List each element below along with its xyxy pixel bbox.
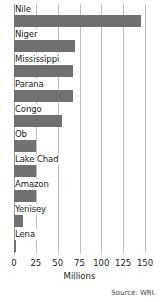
- bar-row: Congo: [14, 104, 145, 129]
- bar-chart: NileNigerMississippiParanaCongoObLake Ch…: [0, 0, 160, 302]
- bar: [14, 65, 73, 77]
- bar-category-label: Lena: [15, 229, 37, 240]
- bar-category-label: Yenisey: [15, 204, 48, 215]
- bar-category-label: Congo: [15, 104, 44, 115]
- x-tick-label: 50: [52, 258, 63, 268]
- bar: [14, 40, 75, 52]
- bar-category-label: Amazon: [15, 179, 51, 190]
- bar-category-label: Nile: [15, 4, 33, 15]
- gridline-150: [145, 4, 146, 254]
- bar: [14, 115, 62, 127]
- bar: [14, 240, 16, 252]
- bar-rows: NileNigerMississippiParanaCongoObLake Ch…: [14, 4, 145, 254]
- bar-row: Ob: [14, 129, 145, 154]
- x-tick-label: 150: [137, 258, 153, 268]
- x-tick-label: 125: [115, 258, 131, 268]
- bar-category-label: Ob: [15, 129, 29, 140]
- x-tick-label: 25: [30, 258, 41, 268]
- bar-category-label: Parana: [15, 79, 46, 90]
- bar: [14, 215, 23, 227]
- bar-category-label: Mississippi: [15, 54, 61, 65]
- bar-category-label: Niger: [15, 29, 39, 40]
- bar-row: Lake Chad: [14, 154, 145, 179]
- x-tick-label: 100: [93, 258, 109, 268]
- bar-row: Parana: [14, 79, 145, 104]
- bar-row: Amazon: [14, 179, 145, 204]
- bar: [14, 165, 36, 177]
- bar: [14, 15, 141, 27]
- x-tick-label: 0: [11, 258, 16, 268]
- bar: [14, 140, 36, 152]
- bar-row: Niger: [14, 29, 145, 54]
- bar: [14, 190, 36, 202]
- plot-area: NileNigerMississippiParanaCongoObLake Ch…: [0, 0, 160, 256]
- bar-row: Mississippi: [14, 54, 145, 79]
- bar-row: Lena: [14, 229, 145, 254]
- bar: [14, 90, 73, 102]
- x-axis-title: Millions: [14, 271, 145, 281]
- source-note: Source: WRI.: [111, 289, 156, 297]
- bar-category-label: Lake Chad: [15, 154, 61, 165]
- bar-row: Yenisey: [14, 204, 145, 229]
- x-tick-label: 75: [74, 258, 85, 268]
